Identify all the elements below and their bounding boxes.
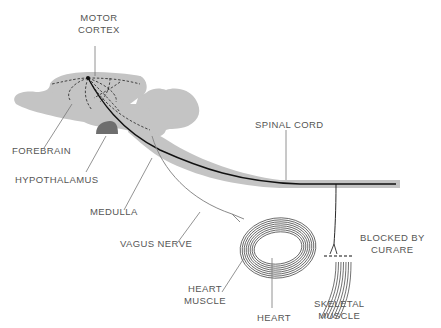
label-motor-cortex: MOTOR CORTEX (78, 12, 120, 36)
nervous-system-diagram (0, 0, 441, 328)
label-forebrain: FOREBRAIN (12, 145, 71, 157)
label-hypothalamus: HYPOTHALAMUS (15, 174, 98, 186)
label-blocked-line2: CURARE (360, 244, 425, 256)
label-skeletal-muscle: SKELETAL MUSCLE (314, 298, 365, 322)
label-heart-muscle-line2: MUSCLE (184, 295, 226, 307)
label-heart: HEART (257, 312, 291, 324)
motor-nerve-to-muscle (334, 184, 336, 244)
label-skeletal-line1: SKELETAL (314, 298, 365, 310)
label-spinal-cord: SPINAL CORD (255, 119, 323, 131)
label-motor-cortex-line1: MOTOR (78, 12, 120, 24)
label-medulla: MEDULLA (90, 206, 138, 218)
label-skeletal-line2: MUSCLE (314, 310, 365, 322)
motor-cortex-dot (86, 76, 90, 80)
label-heart-muscle-line1: HEART (184, 283, 226, 295)
label-vagus-nerve: VAGUS NERVE (120, 238, 192, 250)
label-motor-cortex-line2: CORTEX (78, 24, 120, 36)
label-heart-muscle: HEART MUSCLE (184, 283, 226, 307)
heart-rings (236, 213, 320, 283)
label-blocked-line1: BLOCKED BY (360, 232, 425, 244)
label-blocked-by-curare: BLOCKED BY CURARE (360, 232, 425, 256)
